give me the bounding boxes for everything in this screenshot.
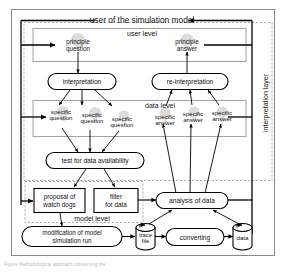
filter-label-line2: for data (105, 201, 127, 208)
modification-label-line2: simulation run (52, 237, 92, 244)
principle-answer-label-line2: answer (177, 45, 197, 52)
specific-answer-3-line2: answer (212, 115, 232, 122)
data-level-label: data level (145, 102, 175, 109)
analysis-of-data-label: analysis of data (169, 197, 215, 205)
figure-root: user of the simulation model user level … (0, 0, 286, 274)
converting-label: converting (180, 234, 211, 242)
interpretation-layer-label: interpretation layer (262, 73, 270, 132)
model-level-label: model level (74, 215, 110, 222)
interpretation-label: interpretation (63, 78, 102, 86)
specific-answer-1-line2: answer (155, 119, 175, 126)
proposal-label-line1: proposal of (44, 193, 76, 201)
figure-frame (12, 10, 275, 256)
trace-file-label-line2: file (142, 238, 149, 244)
test-for-data-availability-label: test for data availability (61, 157, 129, 165)
proposal-label-line2: watch dogs (42, 201, 75, 209)
filter-label-line1: filter (110, 193, 123, 200)
principle-question-label-line2: question (66, 45, 90, 53)
specific-question-1-line2: question (49, 114, 72, 121)
specific-question-2-line2: question (80, 117, 103, 124)
specific-answer-2-line2: answer (183, 116, 203, 123)
reinterpretation-label: re-interpretation (167, 78, 214, 86)
diagram-canvas: user of the simulation model user level … (0, 0, 286, 274)
figure-caption: Figure Methodological approach concernin… (4, 262, 282, 267)
specific-question-3-line2: question (110, 121, 133, 128)
data-store-label: data (236, 234, 249, 241)
user-level-label: user level (127, 30, 157, 37)
figure-title: user of the simulation model (90, 15, 195, 25)
trace-file-label-line1: trace (139, 232, 152, 238)
modification-label-line1: modification of model (42, 229, 102, 236)
